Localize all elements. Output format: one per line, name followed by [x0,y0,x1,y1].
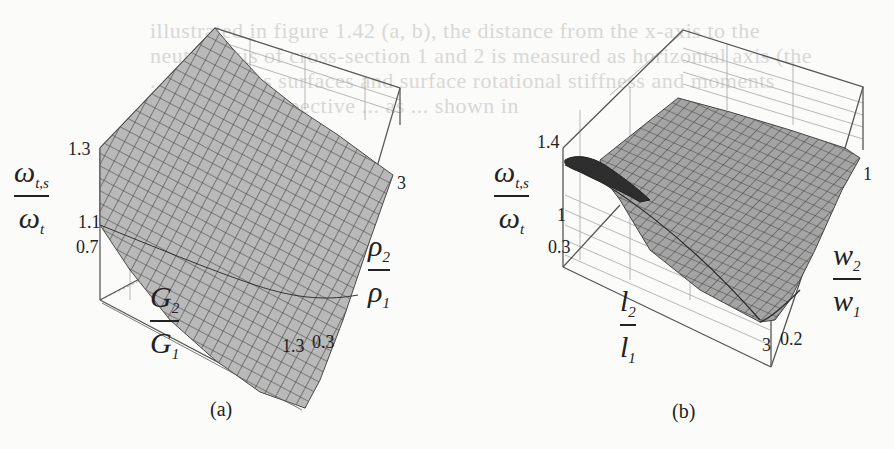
fraction-bar [368,269,390,271]
z-label-numerator-sub: t,s [515,175,529,191]
panel-a-plot [100,28,400,410]
panel-a-y-tick-start: 0.3 [312,333,335,351]
x-label-numerator: G [150,280,172,313]
fraction-bar [620,324,636,326]
panel-a-y-tick-end: 3 [397,174,406,192]
x-label-numerator-sub: 2 [172,300,180,316]
y-label-numerator: w [833,238,853,271]
x-label-denominator-sub: 1 [628,350,636,366]
z-label-denominator-sub: t [40,221,44,237]
x-label-numerator-sub: 2 [628,304,636,320]
z-label-numerator-sub: t,s [35,175,49,191]
x-label-denominator: G [150,326,172,359]
panel-a-surface [100,28,393,408]
panel-a-z-axis-label: ωt,s ωt [14,157,49,237]
z-label-numerator: ω [14,155,35,188]
x-label-denominator-sub: 1 [172,346,180,362]
fraction-bar [14,195,49,197]
y-label-denominator-sub: 1 [853,304,861,320]
panel-a-caption: (a) [210,398,232,421]
z-label-denominator: ω [499,201,520,234]
panel-b-plot [563,30,863,367]
y-label-denominator-sub: 1 [382,295,390,311]
panel-a-z-tick-bottom: 1.1 [78,213,101,231]
panel-b-y-tick-start: 0.2 [780,330,803,348]
panel-b-surface [600,98,860,322]
panel-b-y-axis-label: w2 w1 [833,240,861,320]
panel-b-y-tick-end: 1 [863,165,872,183]
y-label-numerator-sub: 2 [853,258,861,274]
y-label-numerator: ρ [368,229,382,262]
fraction-bar [833,278,861,280]
panel-a-x-tick-end: 1.3 [282,337,305,355]
panel-b-x-tick-end: 3 [762,336,771,354]
y-label-denominator: ρ [368,275,382,308]
panel-b-z-axis-label: ωt,s ωt [494,157,529,237]
panel-b-z-tick-top: 1.4 [537,133,560,151]
y-label-numerator-sub: 2 [382,249,390,265]
panel-b-z-tick-bottom: 1 [557,206,566,224]
panel-b-caption: (b) [672,400,695,423]
z-label-numerator: ω [494,155,515,188]
y-label-denominator: w [833,284,853,317]
panel-b-x-axis-label: l2 l1 [620,286,636,366]
z-label-denominator: ω [19,201,40,234]
z-label-denominator-sub: t [520,221,524,237]
panel-b-x-tick-start: 0.3 [548,238,571,256]
panel-a-z-tick-top: 1.3 [68,140,91,158]
panel-a-x-tick-start: 0.7 [76,238,99,256]
fraction-bar [150,320,179,322]
fraction-bar [494,195,529,197]
panel-a-x-axis-label: G2 G1 [150,282,179,362]
panel-a-y-axis-label: ρ2 ρ1 [368,231,390,311]
figure-plots [0,0,894,449]
